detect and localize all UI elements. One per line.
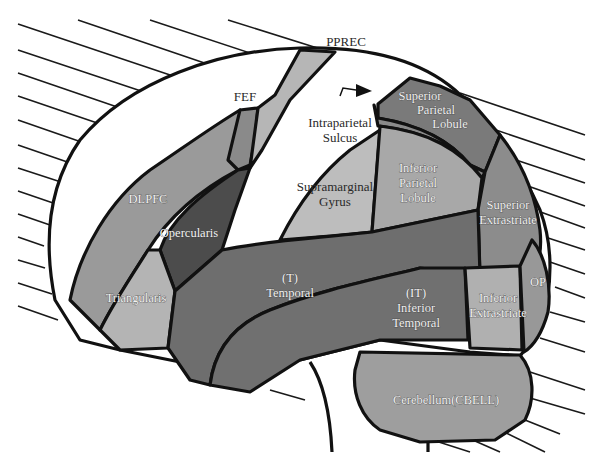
label-pprec: PPREC [326,34,366,49]
label-inferior-extrastriate-1: Inferior [479,291,518,305]
label-inferior-extrastriate-2: Extrastriate [469,306,527,320]
label-op: OP [530,275,546,289]
label-superior-parietal-3: Lobule [432,117,468,131]
label-fef: FEF [234,89,256,104]
label-superior-extrastriate-2: Extrastriate [479,213,537,227]
label-inferior-parietal-1: Inferior [399,161,438,175]
label-inferior-temporal-3: Temporal [392,316,440,330]
label-superior-parietal-1: Superior [398,89,442,103]
label-inferior-temporal-1: (IT) [406,286,426,300]
label-inferior-temporal-2: Inferior [397,301,436,315]
label-supramarginal-1: Supramarginal [297,179,374,194]
label-inferior-parietal-3: Lobule [400,191,436,205]
label-opercularis: Opercularis [160,226,218,240]
label-supramarginal-2: Gyrus [319,194,351,209]
label-triangularis: Triangularis [106,291,167,305]
label-superior-parietal-2: Parietal [417,103,456,117]
label-dlpfc: DLPFC [129,192,168,206]
label-inferior-parietal-2: Parietal [399,176,438,190]
brain-diagram: PPREC FEF Intraparietal Sulcus Superior … [0,0,601,467]
label-intraparietal-2: Sulcus [323,130,358,145]
label-superior-extrastriate-1: Superior [486,198,530,212]
label-temporal-1: (T) [282,271,298,285]
label-temporal-2: Temporal [266,286,314,300]
brain-svg: PPREC FEF Intraparietal Sulcus Superior … [0,0,601,467]
label-cerebellum: Cerebellum(CBELL) [393,393,499,407]
label-intraparietal-1: Intraparietal [308,115,372,130]
